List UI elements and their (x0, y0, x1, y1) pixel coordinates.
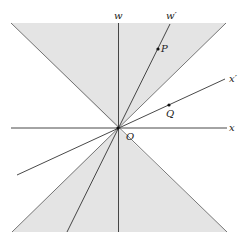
w-prime-axis-label: w′ (166, 10, 178, 21)
point-q (167, 103, 170, 106)
origin-point (116, 126, 119, 129)
w-axis-label: w (114, 10, 123, 21)
point-p-label: P (160, 43, 168, 54)
past-light-cone (12, 128, 227, 232)
x-axis-label: x (229, 122, 235, 133)
origin-label: O (126, 131, 134, 142)
point-q-label: Q (166, 108, 174, 119)
spacetime-diagram: w w′ x′ x O P Q (0, 0, 249, 244)
point-p (156, 47, 159, 50)
x-prime-axis-label: x′ (229, 73, 238, 84)
